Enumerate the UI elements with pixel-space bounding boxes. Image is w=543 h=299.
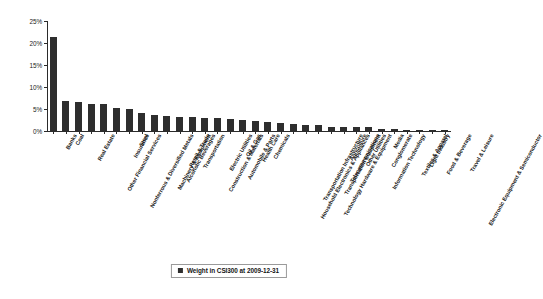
x-axis-labels: BanksCoalReal EstateOther Financial Serv… — [47, 133, 451, 253]
bar — [138, 113, 145, 131]
chart-legend: Weight in CSI300 at 2009-12-31 — [171, 264, 287, 278]
x-tick-label: Steel — [138, 133, 150, 147]
y-tick-label: 15% — [30, 62, 43, 69]
bar — [50, 37, 57, 131]
y-tick-label: 20% — [30, 40, 43, 47]
x-tick-label: Real Estate — [96, 133, 116, 162]
bar — [100, 104, 107, 131]
bar — [176, 117, 183, 131]
y-tick-label: 10% — [30, 84, 43, 91]
y-tick-mark — [44, 131, 47, 132]
bar — [88, 104, 95, 131]
bar — [113, 108, 120, 131]
bar — [189, 117, 196, 131]
bar — [163, 116, 170, 131]
bar — [290, 124, 297, 131]
plot-area: 0%5%10%15%20%25% — [47, 21, 451, 131]
bar — [62, 101, 69, 131]
bar — [239, 120, 246, 131]
bar — [227, 119, 234, 131]
x-tick-label: Electronic Equipment & Semiconductor — [488, 133, 543, 227]
bar — [126, 109, 133, 131]
y-tick-label: 0% — [33, 128, 42, 135]
bars-layer — [47, 21, 451, 131]
x-tick-label: Travel & Leisure — [469, 133, 495, 173]
bar — [214, 118, 221, 131]
bar — [201, 118, 208, 131]
legend-label: Weight in CSI300 at 2009-12-31 — [187, 267, 279, 274]
legend-swatch-icon — [178, 268, 183, 273]
x-axis-line — [47, 131, 451, 132]
bar — [277, 123, 284, 131]
bar — [151, 115, 158, 131]
bar — [264, 122, 271, 131]
bar — [252, 121, 259, 131]
bar — [75, 102, 82, 131]
y-tick-label: 5% — [33, 106, 42, 113]
y-tick-label: 25% — [30, 18, 43, 25]
